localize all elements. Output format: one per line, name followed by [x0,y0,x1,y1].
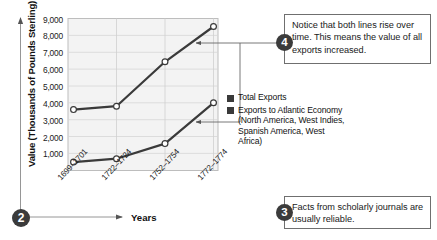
legend-item-atlantic-economy: Exports to Atlantic Economy (North Ameri… [227,105,347,147]
callout-3-text: Facts from scholarly journals are usuall… [292,202,423,224]
callout-marker-3[interactable]: 3 [276,204,293,221]
callout-box-3: Facts from scholarly journals are usuall… [284,196,431,229]
callout-marker-2[interactable]: 2 [12,209,30,227]
chart-page: 9,000 8,000 7,000 6,000 5,000 4,000 3,00… [0,0,437,240]
legend-swatch-total-exports [227,95,234,102]
legend-swatch-atlantic-economy [227,107,234,114]
callout-box-4: Notice that both lines rise over time. T… [284,14,431,64]
x-axis-title: Years [131,212,157,223]
callout-4-text: Notice that both lines rise over time. T… [292,20,422,55]
legend-label-total-exports: Total Exports [238,92,286,103]
y-axis-title: Value (Thousands of Pounds Sterling) [26,1,37,167]
legend-item-total-exports: Total Exports [227,92,347,103]
legend-label-atlantic-economy: Exports to Atlantic Economy (North Ameri… [238,105,347,147]
plot-area [68,19,218,171]
chart-legend: Total Exports Exports to Atlantic Econom… [227,92,347,149]
callout-marker-4[interactable]: 4 [276,34,293,51]
